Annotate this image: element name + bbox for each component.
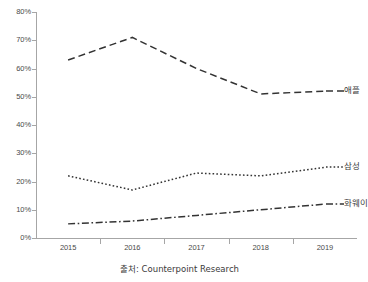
y-axis-tick-label: 70% bbox=[1, 36, 31, 44]
series-label-swatch-0 bbox=[326, 89, 344, 93]
x-axis-tick-label: 2016 bbox=[109, 243, 155, 252]
series-label-2: 화웨이 bbox=[344, 198, 368, 208]
series-label-0: 애플 bbox=[344, 85, 360, 95]
y-axis-tick-label: 20% bbox=[1, 178, 31, 186]
x-axis-tick-mark bbox=[229, 239, 230, 244]
y-axis-tick-label: 30% bbox=[1, 149, 31, 157]
y-axis-tick-label: 40% bbox=[1, 121, 31, 129]
series-label-swatch-1 bbox=[326, 165, 344, 169]
series-line-0 bbox=[68, 37, 325, 94]
series-line-1 bbox=[68, 167, 325, 190]
x-axis-line bbox=[36, 238, 357, 239]
series-line-2 bbox=[68, 204, 325, 224]
y-axis-tick-label: 60% bbox=[1, 65, 31, 73]
x-axis-tick-label: 2015 bbox=[45, 243, 91, 252]
x-axis-tick-label: 2018 bbox=[238, 243, 284, 252]
plot-area bbox=[36, 12, 357, 238]
x-axis-tick-label: 2019 bbox=[302, 243, 348, 252]
y-axis-tick-label: 10% bbox=[1, 206, 31, 214]
x-axis-tick-label: 2017 bbox=[174, 243, 220, 252]
x-axis-tick-mark bbox=[164, 239, 165, 244]
y-axis-tick-labels: 0%10%20%30%40%50%60%70%80% bbox=[0, 0, 31, 282]
y-axis-tick-label: 0% bbox=[1, 234, 31, 242]
series-label-1: 삼성 bbox=[344, 161, 360, 171]
x-axis-tick-mark bbox=[100, 239, 101, 244]
series-lines bbox=[36, 12, 357, 238]
y-axis-tick-label: 80% bbox=[1, 8, 31, 16]
y-axis-tick-label: 50% bbox=[1, 93, 31, 101]
x-axis-tick-mark bbox=[293, 239, 294, 244]
series-label-swatch-2 bbox=[326, 202, 344, 206]
chart-caption: 출처: Counterpoint Research bbox=[0, 264, 359, 275]
